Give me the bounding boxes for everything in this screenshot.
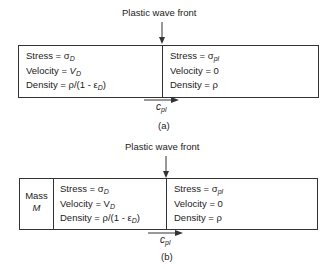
deformed-region-a: Stress = σD Velocity = VD Density = ρ/(1… bbox=[26, 49, 106, 93]
velocity-undeformed-b: Velocity = 0 bbox=[174, 197, 223, 212]
undeformed-region-a: Stress = σpl Velocity = 0 Density = ρ bbox=[170, 49, 219, 93]
caption-b: (b) bbox=[161, 251, 173, 262]
velocity-deformed-a: Velocity = VD bbox=[26, 64, 106, 79]
mass-divider-b bbox=[53, 178, 54, 230]
density-deformed-b: Density = ρ/(1 - εD) bbox=[60, 211, 140, 226]
stress-deformed-b: Stress = σD bbox=[60, 182, 140, 197]
stress-undeformed-a: Stress = σpl bbox=[170, 49, 219, 64]
wave-front-arrow-down-icon bbox=[157, 22, 167, 46]
density-undeformed-a: Density = ρ bbox=[170, 78, 219, 93]
density-deformed-a: Density = ρ/(1 - εD) bbox=[26, 78, 106, 93]
wave-front-divider-a bbox=[162, 45, 163, 98]
caption-a: (a) bbox=[158, 120, 170, 131]
density-undeformed-b: Density = ρ bbox=[174, 211, 223, 226]
wave-speed-label-b: cpl bbox=[160, 234, 170, 245]
stress-undeformed-b: Stress = σpl bbox=[174, 182, 223, 197]
mass-symbol: M bbox=[20, 202, 53, 214]
wave-speed-label-a: cpl bbox=[156, 101, 166, 112]
velocity-deformed-b: Velocity = VD bbox=[60, 197, 140, 212]
mass-label: Mass bbox=[20, 190, 53, 202]
undeformed-region-b: Stress = σpl Velocity = 0 Density = ρ bbox=[174, 182, 223, 226]
velocity-undeformed-a: Velocity = 0 bbox=[170, 64, 219, 79]
wave-front-divider-b bbox=[166, 178, 167, 230]
wave-front-title-a: Plastic wave front bbox=[122, 7, 196, 18]
mass-block-b: Mass M bbox=[20, 190, 53, 214]
wave-front-arrow-down-icon bbox=[161, 156, 171, 180]
wave-front-title-b: Plastic wave front bbox=[125, 141, 199, 152]
deformed-region-b: Stress = σD Velocity = VD Density = ρ/(1… bbox=[60, 182, 140, 226]
stress-deformed-a: Stress = σD bbox=[26, 49, 106, 64]
